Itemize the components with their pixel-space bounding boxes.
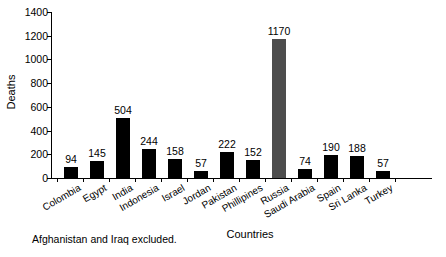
bar-chart: Deaths 1400120010008006004002000 9414550…	[0, 0, 446, 257]
category-label: Turkey	[363, 182, 395, 207]
bar-value-label: 504	[106, 105, 140, 116]
category-label-text: Egypt	[81, 182, 109, 204]
bar	[116, 118, 130, 178]
bar-value-label: 1170	[262, 26, 296, 37]
y-tick-label: 800	[14, 78, 48, 88]
y-tick-label: 1400	[14, 7, 48, 17]
bar-group: 188	[344, 12, 370, 178]
bar	[246, 160, 260, 178]
bar-value-label: 57	[184, 158, 218, 169]
bar	[298, 169, 312, 178]
bar-group: 145	[84, 12, 110, 178]
y-tick-label: 200	[14, 149, 48, 159]
plot-area: 941455042441585722215211707419018857	[51, 12, 432, 178]
bar-value-label: 188	[340, 143, 374, 154]
bar	[168, 159, 182, 178]
bar-value-label: 158	[158, 146, 192, 157]
bar-group: 158	[162, 12, 188, 178]
bar-value-label: 152	[236, 147, 270, 158]
y-tick-label: 600	[14, 102, 48, 112]
bar	[220, 152, 234, 178]
bar	[142, 149, 156, 178]
bar-value-label: 74	[288, 156, 322, 167]
bar-group: 504	[110, 12, 136, 178]
category-label: Egypt	[81, 182, 109, 204]
bar-group: 1170	[266, 12, 292, 178]
y-tick-label: 1000	[14, 54, 48, 64]
category-label-text: Turkey	[363, 182, 395, 207]
y-axis-tick-labels: 1400120010008006004002000	[14, 0, 48, 257]
bar-group: 57	[370, 12, 396, 178]
bar	[324, 155, 338, 178]
chart-footnote: Afghanistan and Iraq excluded.	[32, 233, 177, 245]
bar	[272, 39, 286, 178]
y-tick-label: 400	[14, 126, 48, 136]
bar	[194, 171, 208, 178]
y-tick-label: 0	[14, 173, 48, 183]
bar	[90, 161, 104, 178]
bar-group: 57	[188, 12, 214, 178]
bar	[64, 167, 78, 178]
bar-value-label: 57	[366, 158, 400, 169]
y-tick-label: 1200	[14, 31, 48, 41]
bar	[376, 171, 390, 178]
bar	[350, 156, 364, 178]
bar-value-label: 145	[80, 148, 114, 159]
